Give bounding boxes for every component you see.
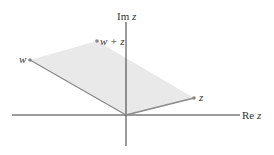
imag-axis-label: Im z <box>117 10 137 22</box>
label-w-plus-z: w + z <box>100 35 125 47</box>
point-z <box>192 96 196 100</box>
real-axis-label: Re z <box>242 109 262 121</box>
label-z: z <box>198 91 204 103</box>
label-w: w <box>19 53 27 65</box>
point-w-plus-z <box>95 39 99 43</box>
parallelogram-diagram: Im z Re z w z w + z <box>0 0 274 155</box>
point-w <box>28 58 32 62</box>
